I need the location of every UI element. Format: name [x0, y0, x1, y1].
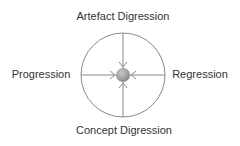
center-node: [116, 68, 130, 82]
label-concept-digression: Concept Digression: [76, 124, 172, 136]
label-artefact-digression: Artefact Digression: [77, 10, 170, 22]
label-regression: Regression: [172, 68, 228, 80]
label-progression: Progression: [12, 68, 71, 80]
